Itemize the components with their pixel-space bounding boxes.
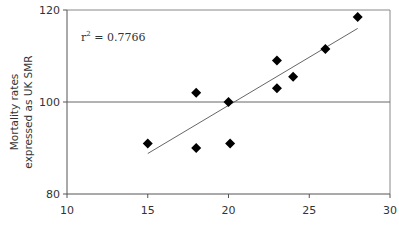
r-squared-annotation: r2 = 0.7766 <box>81 30 145 44</box>
diamond-marker <box>224 97 234 107</box>
x-tick-label: 30 <box>383 204 397 217</box>
y-tick-label: 100 <box>39 96 60 109</box>
x-tick-label: 25 <box>302 204 316 217</box>
data-points <box>143 12 363 153</box>
y-axis-title-line1: Mortality rates <box>8 74 20 151</box>
scatter-chart: 80100120 1015202530 Mortality rates expr… <box>0 0 399 231</box>
x-tick-label: 15 <box>141 204 155 217</box>
x-tick-label: 10 <box>60 204 74 217</box>
y-tick-label: 120 <box>39 4 60 17</box>
r-squared-value: = 0.7766 <box>91 31 146 44</box>
diamond-marker <box>191 88 201 98</box>
diamond-marker <box>272 83 282 93</box>
x-tick-label: 20 <box>222 204 236 217</box>
diamond-marker <box>353 12 363 22</box>
diamond-marker <box>272 56 282 66</box>
diamond-marker <box>191 143 201 153</box>
diamond-marker <box>143 138 153 148</box>
y-axis-ticks: 80100120 <box>39 4 67 201</box>
y-axis-title: Mortality rates expressed as UK SMR <box>8 55 34 168</box>
diamond-marker <box>288 72 298 82</box>
diamond-marker <box>225 138 235 148</box>
y-axis-title-line2: expressed as UK SMR <box>22 55 34 168</box>
y-tick-label: 80 <box>46 188 60 201</box>
x-axis-ticks: 1015202530 <box>60 194 397 217</box>
